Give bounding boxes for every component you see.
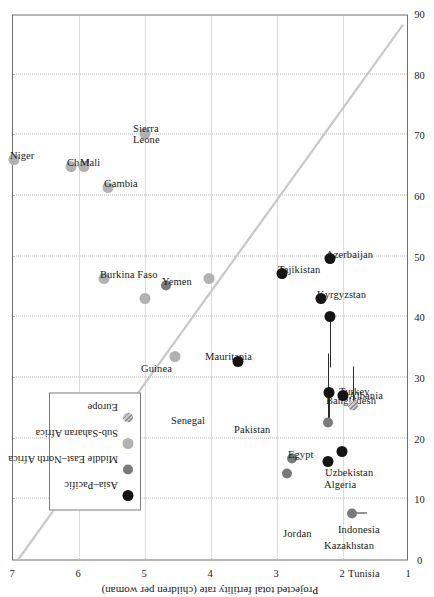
point-label: Senegal (171, 414, 205, 425)
y-axis-tick-label: 4 (207, 568, 212, 579)
legend-label-mena[interactable]: Middle East–North Africa (9, 453, 119, 464)
point-label: Gambia (104, 177, 138, 188)
x-axis-tick-label: 60 (414, 191, 425, 202)
data-point[interactable] (324, 311, 335, 322)
data-point[interactable] (336, 446, 347, 457)
legend[interactable]: Asia–PacificMiddle East–North AfricaSub-… (49, 392, 141, 510)
point-label: Egypt (288, 448, 314, 459)
x-axis-tick-label: 70 (414, 130, 425, 141)
x-axis-tick-label: 30 (414, 373, 425, 384)
point-label: SierraLeone (133, 123, 160, 144)
y-axis-tick-label: 1 (405, 568, 410, 579)
point-label: Kyrgyzstan (317, 288, 366, 299)
data-point[interactable] (282, 468, 292, 478)
rotated-figure-wrapper: NigerChadMaliSierraLeoneGambiaBurkina Fa… (0, 0, 434, 597)
y-axis-tick-label: 6 (75, 568, 80, 579)
y-axis-title: Projected total fertility rate (children… (102, 584, 319, 596)
legend-marker-eur (123, 412, 133, 422)
legend-marker-mena (123, 464, 133, 474)
figure-canvas: NigerChadMaliSierraLeoneGambiaBurkina Fa… (0, 0, 434, 597)
y-axis-tick-label: 5 (141, 568, 146, 579)
y-axis-tick-label: 7 (9, 568, 14, 579)
point-label: Uzbekistan (325, 466, 373, 477)
x-axis-tick-label: 0 (417, 555, 422, 566)
x-axis-tick-label: 50 (414, 251, 425, 262)
legend-marker-ssa (123, 438, 134, 449)
legend-label-eur[interactable]: Europe (88, 401, 118, 412)
point-label: Niger (10, 149, 34, 160)
x-axis-tick-label: 20 (414, 433, 425, 444)
scatter-plot-figure: NigerChadMaliSierraLeoneGambiaBurkina Fa… (0, 0, 434, 597)
data-point[interactable] (170, 350, 181, 361)
point-label: Indonesia (338, 523, 380, 534)
point-label: Pakistan (234, 423, 270, 434)
point-label: Burkina Faso (100, 268, 158, 279)
data-point[interactable] (324, 387, 335, 398)
point-label: Tunisia (348, 567, 380, 578)
point-label: Guinea (141, 362, 172, 373)
point-label: Jordan (283, 527, 312, 538)
data-point[interactable] (204, 272, 215, 283)
point-label: Tajikistan (278, 263, 320, 274)
data-point[interactable] (140, 293, 151, 304)
x-axis-tick-label: 80 (414, 69, 425, 80)
y-axis-tick-label: 3 (273, 568, 278, 579)
x-axis-tick-label: 40 (414, 312, 425, 323)
data-point[interactable] (348, 400, 358, 410)
data-point[interactable] (347, 508, 357, 518)
label-leader-line (330, 316, 331, 367)
data-point[interactable] (233, 356, 244, 367)
plot-area: NigerChadMaliSierraLeoneGambiaBurkina Fa… (12, 14, 408, 560)
data-point[interactable] (323, 417, 333, 427)
legend-label-asia[interactable]: Asia–Pacific (65, 479, 119, 490)
point-label: Azerbaijan (326, 248, 373, 259)
point-label: Albania (349, 389, 383, 400)
y-axis-tick-label: 2 (339, 568, 344, 579)
x-axis-tick-label: 10 (414, 494, 425, 505)
data-point[interactable] (323, 456, 334, 467)
x-axis-tick-label: 90 (414, 9, 425, 20)
legend-label-ssa[interactable]: Sub-Saharan Africa (36, 427, 119, 438)
point-label: Mali (80, 156, 100, 167)
point-label: Algeria (324, 478, 356, 489)
legend-marker-asia (123, 490, 134, 501)
point-label: Kazakhstan (324, 539, 374, 550)
point-label: Yemen (162, 275, 192, 286)
point-label: Mauritania (205, 350, 252, 361)
